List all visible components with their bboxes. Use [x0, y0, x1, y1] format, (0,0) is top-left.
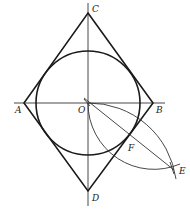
- geometry-diagram: C A O B F E D: [0, 0, 190, 210]
- label-F: F: [127, 143, 135, 153]
- label-B: B: [155, 105, 163, 115]
- label-O: O: [78, 105, 86, 115]
- label-E: E: [178, 166, 186, 176]
- arc-centered-B: [88, 103, 180, 169]
- label-D: D: [91, 193, 99, 203]
- label-A: A: [14, 105, 22, 115]
- label-C: C: [92, 4, 99, 14]
- arc-centered-D: [88, 103, 176, 179]
